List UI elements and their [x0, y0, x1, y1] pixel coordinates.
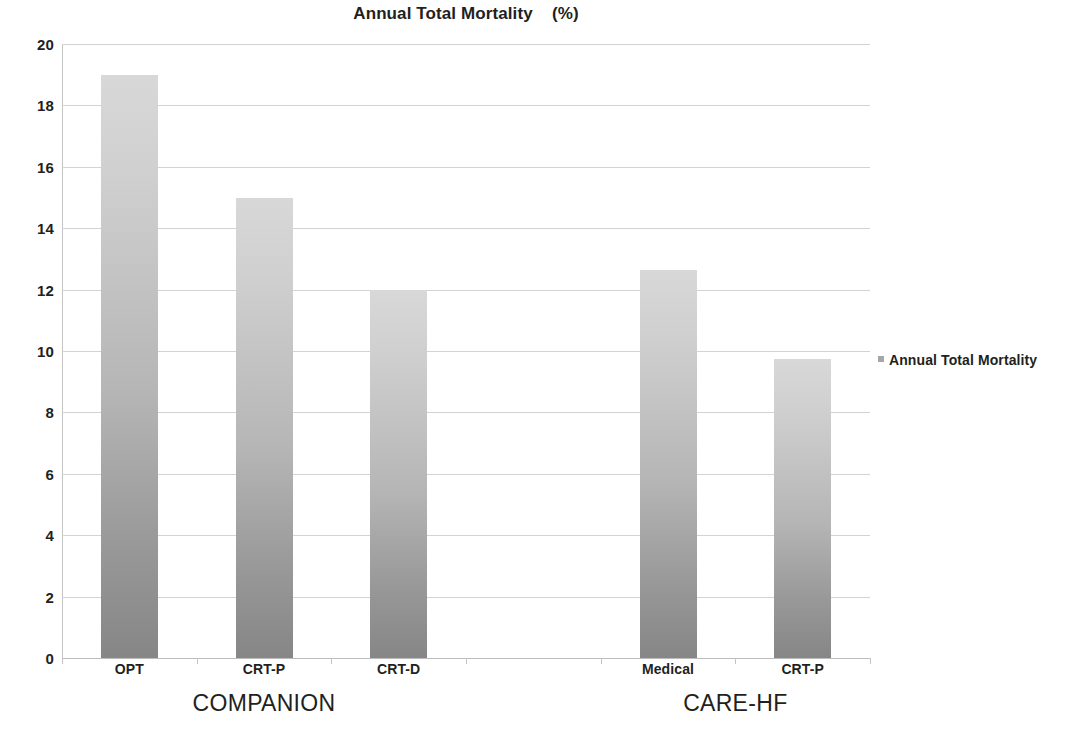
bar[interactable]: [370, 290, 427, 658]
legend-square-marker-icon: [878, 356, 884, 362]
bar-chart: Annual Total Mortality (%) 2018161412108…: [0, 0, 1089, 740]
legend: Annual Total Mortality: [878, 352, 1037, 368]
x-axis-group-label: CARE-HF: [601, 690, 870, 717]
gridline: [62, 597, 870, 598]
bar[interactable]: [101, 75, 158, 658]
y-axis-tick-label: 14: [8, 220, 54, 237]
y-axis-tick-label: 20: [8, 36, 54, 53]
y-axis-tick-label: 10: [8, 343, 54, 360]
y-axis-tick-label: 12: [8, 281, 54, 298]
y-axis-tick-label: 4: [8, 527, 54, 544]
gridline: [62, 105, 870, 106]
gridline: [62, 474, 870, 475]
y-axis-tick-label: 8: [8, 404, 54, 421]
bar[interactable]: [236, 198, 293, 659]
y-axis-tick-label: 6: [8, 465, 54, 482]
gridline: [62, 351, 870, 352]
x-axis-category-label: Medical: [601, 661, 736, 677]
y-axis-tick-label: 0: [8, 650, 54, 667]
gridline: [62, 167, 870, 168]
x-axis-category-label: CRT-P: [197, 661, 332, 677]
x-axis-tick: [466, 658, 467, 664]
chart-title: Annual Total Mortality (%): [62, 4, 870, 24]
y-axis-tick-label: 16: [8, 158, 54, 175]
x-axis-tick: [870, 658, 871, 664]
x-axis-category-label: OPT: [62, 661, 197, 677]
bar[interactable]: [640, 270, 697, 658]
gridline: [62, 228, 870, 229]
y-axis-tick-label: 2: [8, 588, 54, 605]
gridline: [62, 412, 870, 413]
gridline: [62, 290, 870, 291]
gridline: [62, 535, 870, 536]
plot-area: [62, 44, 870, 658]
x-axis-group-label: COMPANION: [62, 690, 466, 717]
legend-label: Annual Total Mortality: [889, 352, 1037, 368]
x-axis-category-label: CRT-D: [331, 661, 466, 677]
y-axis-tick-labels: 20181614121086420: [0, 0, 54, 740]
y-axis-tick-label: 18: [8, 97, 54, 114]
x-axis-category-label: CRT-P: [735, 661, 870, 677]
bar[interactable]: [774, 359, 831, 658]
gridline: [62, 44, 870, 45]
